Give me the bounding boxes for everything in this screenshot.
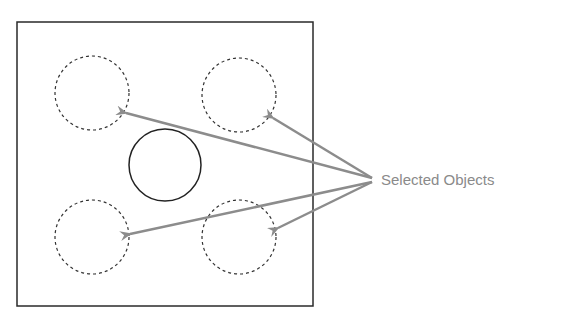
- arrow-bottom-left: [130, 182, 372, 234]
- selected-object-top-left[interactable]: [55, 56, 129, 130]
- selected-object-bottom-left[interactable]: [55, 200, 129, 274]
- canvas-frame: [17, 22, 313, 306]
- selected-object-top-right[interactable]: [202, 58, 276, 132]
- arrow-bottom-right: [278, 182, 372, 228]
- arrow-top-left: [126, 113, 372, 178]
- unselected-object-center[interactable]: [129, 129, 201, 201]
- diagram-canvas: [0, 0, 563, 320]
- arrow-top-right: [273, 118, 372, 178]
- selected-objects-label: Selected Objects: [381, 171, 494, 188]
